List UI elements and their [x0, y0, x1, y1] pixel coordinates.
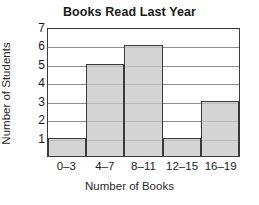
bars-group [48, 29, 239, 156]
bar-slot [124, 29, 162, 156]
chart-title: Books Read Last Year [0, 5, 259, 19]
x-axis-tick-labels: 0–34–78–1112–1516–19 [47, 160, 240, 172]
histogram-chart: Books Read Last Year Number of Students … [0, 0, 259, 205]
x-tick-label: 0–3 [47, 160, 86, 172]
y-tick-label: 6 [30, 40, 45, 52]
x-tick-label: 4–7 [86, 160, 125, 172]
bar[interactable] [86, 64, 124, 156]
x-tick-label: 12–15 [163, 160, 202, 172]
x-tick-label: 8–11 [124, 160, 163, 172]
bar-slot [48, 29, 86, 156]
bar[interactable] [124, 45, 162, 156]
x-axis-title: Number of Books [0, 180, 259, 192]
y-axis-title: Number of Students [0, 31, 16, 156]
plot-area [47, 28, 240, 157]
y-axis-tick-labels: 1234567 [30, 22, 45, 157]
bar[interactable] [48, 138, 86, 156]
y-tick-label: 3 [30, 96, 45, 108]
bar[interactable] [163, 138, 201, 156]
bar-slot [201, 29, 239, 156]
y-tick-label: 7 [30, 22, 45, 34]
y-tick-label: 5 [30, 59, 45, 71]
y-tick-label: 1 [30, 133, 45, 145]
bar-slot [163, 29, 201, 156]
y-tick-label: 2 [30, 114, 45, 126]
bar[interactable] [201, 101, 239, 156]
x-tick-label: 16–19 [201, 160, 240, 172]
y-tick-label: 4 [30, 77, 45, 89]
bar-slot [86, 29, 124, 156]
